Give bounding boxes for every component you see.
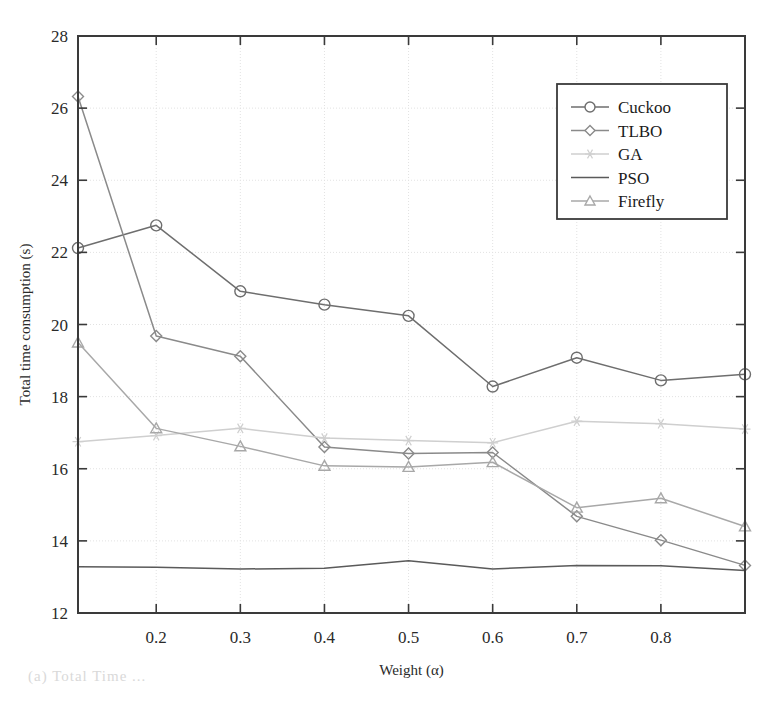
line-chart: 1214161820222426280.20.30.40.50.60.70.8W…	[0, 0, 784, 702]
series-line	[78, 421, 745, 443]
y-axis-title: Total time consumption (s)	[17, 244, 34, 406]
x-tick-label: 0.4	[314, 628, 336, 647]
series-line	[78, 225, 745, 386]
x-tick-label: 0.8	[650, 628, 671, 647]
series-line	[78, 343, 745, 527]
x-tick-label: 0.2	[146, 628, 167, 647]
legend-label: PSO	[618, 169, 649, 188]
x-tick-label: 0.7	[566, 628, 588, 647]
y-tick-label: 26	[51, 99, 68, 118]
y-tick-label: 22	[51, 243, 68, 262]
legend-marker-circle	[585, 102, 595, 112]
marker-star	[235, 424, 246, 434]
x-tick-label: 0.6	[482, 628, 503, 647]
y-tick-label: 24	[51, 171, 69, 190]
legend-label: Cuckoo	[618, 98, 671, 117]
legend-label: Firefly	[618, 192, 665, 211]
x-tick-label: 0.5	[398, 628, 419, 647]
series-cuckoo	[73, 220, 751, 392]
figure-caption: (a) Total Time ...	[28, 668, 146, 685]
y-tick-label: 20	[51, 316, 68, 335]
figure-root: 1214161820222426280.20.30.40.50.60.70.8W…	[0, 0, 784, 702]
marker-star	[403, 436, 414, 446]
series-line	[78, 561, 745, 571]
x-tick-label: 0.3	[230, 628, 251, 647]
legend: CuckooTLBOGAPSOFirefly	[557, 84, 727, 219]
y-tick-label: 16	[51, 460, 68, 479]
legend-label: TLBO	[618, 122, 662, 141]
y-tick-label: 14	[51, 532, 69, 551]
y-tick-label: 12	[51, 604, 68, 623]
y-tick-label: 28	[51, 27, 68, 46]
y-tick-label: 18	[51, 388, 68, 407]
legend-label: GA	[618, 145, 643, 164]
series-pso	[78, 561, 745, 571]
x-axis-title: Weight (α)	[379, 662, 444, 679]
